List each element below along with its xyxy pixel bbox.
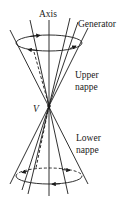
- generator-line-labelled: [49, 22, 78, 106]
- upper-nappe-label-line2: nappe: [75, 82, 98, 92]
- upper-nappe-label-line1: Upper: [75, 70, 100, 80]
- generator-line-labelled-lower: [22, 106, 49, 190]
- hidden-generator-upper: [34, 52, 49, 106]
- lower-nappe-label-line2: nappe: [76, 145, 99, 155]
- axis-label: Axis: [39, 9, 57, 19]
- vertex-point: [47, 104, 51, 108]
- lower-arrow-left: [22, 171, 28, 173]
- upper-arrow-back: [30, 35, 40, 36]
- double-cone-diagram: Axis Generator Upper nappe V Lower nappe: [0, 0, 123, 212]
- generator-line-inner-left: [30, 20, 49, 106]
- lower-nappe-label-line1: Lower: [76, 133, 102, 143]
- vertex-label: V: [33, 104, 40, 114]
- generator-line-inner-left-lower: [49, 106, 68, 194]
- generator-label: Generator: [78, 19, 117, 29]
